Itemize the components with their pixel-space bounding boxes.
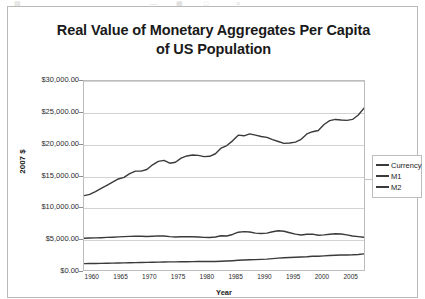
legend-label-currency: Currency [391,161,421,170]
y-tick-label: $20,000.00 [9,140,79,148]
y-axis-tick-labels: $0.00$5,000.00$10,000.00$15,000.00$20,00… [8,80,79,271]
legend-swatch-m2 [376,186,389,188]
legend-leader-line [365,179,372,180]
chart-title: Real Value of Monetary Aggregates Per Ca… [16,21,411,59]
y-tick-label: $5,000.00 [9,235,79,243]
x-axis-tick-labels: 1960196519701975198019851990199520002005 [83,273,365,285]
series-plot [84,81,364,270]
chart-figure-frame: Real Value of Monetary Aggregates Per Ca… [7,6,418,298]
x-axis-title: Year [83,288,365,297]
series-line-currency [84,254,364,264]
x-tick-label: 2005 [334,273,368,281]
series-line-m2 [84,108,364,196]
y-tick-mark [79,271,83,272]
plot-area [83,80,365,271]
legend-item-m2[interactable]: M2 [376,182,418,192]
chart-title-line-1: Real Value of Monetary Aggregates Per Ca… [57,22,370,38]
legend-swatch-currency [376,164,389,166]
y-tick-label: $10,000.00 [9,203,79,211]
legend-item-m1[interactable]: M1 [376,171,418,181]
legend-item-currency[interactable]: Currency [376,160,418,170]
y-tick-label: $25,000.00 [9,108,79,116]
legend-label-m2: M2 [391,183,401,192]
chart-title-line-2: of US Population [16,40,411,59]
legend-swatch-m1 [376,175,389,177]
legend-label-m1: M1 [391,172,401,181]
series-line-m1 [84,231,364,239]
y-tick-label: $15,000.00 [9,172,79,180]
chart-legend: Currency M1 M2 [372,155,422,198]
y-tick-label: $0.00 [9,267,79,275]
y-tick-label: $30,000.00 [9,76,79,84]
